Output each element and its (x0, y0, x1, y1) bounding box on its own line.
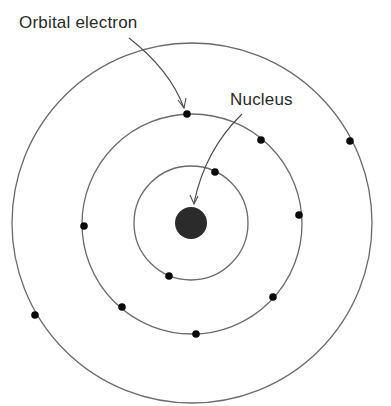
nucleus (175, 207, 207, 239)
electron-outer-1 (346, 137, 354, 145)
electron-inner-2 (165, 272, 173, 280)
orbital-electron-arrow (129, 38, 186, 108)
electron-middle-4 (80, 222, 88, 230)
electron-inner-1 (211, 168, 219, 176)
atom-diagram (0, 0, 391, 406)
nucleus-label: Nucleus (230, 90, 293, 110)
orbital-electron-label: Orbital electron (19, 13, 137, 33)
nucleus-arrow (190, 114, 242, 204)
electron-middle-1 (183, 110, 191, 118)
electron-middle-3 (295, 211, 303, 219)
electron-middle-2 (257, 136, 265, 144)
electron-middle-6 (269, 293, 277, 301)
electron-middle-5 (118, 303, 126, 311)
electron-middle-7 (192, 330, 200, 338)
electron-outer-2 (31, 311, 39, 319)
